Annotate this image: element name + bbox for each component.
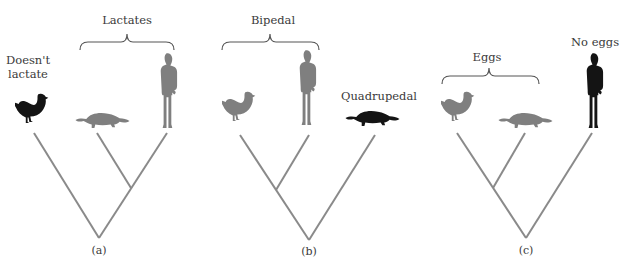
cladogram-a bbox=[0, 0, 207, 272]
panel-caption: (c) bbox=[511, 244, 541, 257]
panel-caption: (a) bbox=[84, 244, 114, 257]
cladogram-c bbox=[415, 0, 621, 272]
panel-caption: (b) bbox=[294, 245, 324, 258]
panel-c: Eggs No eggs (c) bbox=[415, 0, 621, 272]
cladogram-b bbox=[207, 0, 415, 272]
panel-a: Doesn't lactate Lactates (a) bbox=[0, 0, 207, 272]
panel-b: Bipedal Quadrupedal (b) bbox=[207, 0, 415, 272]
